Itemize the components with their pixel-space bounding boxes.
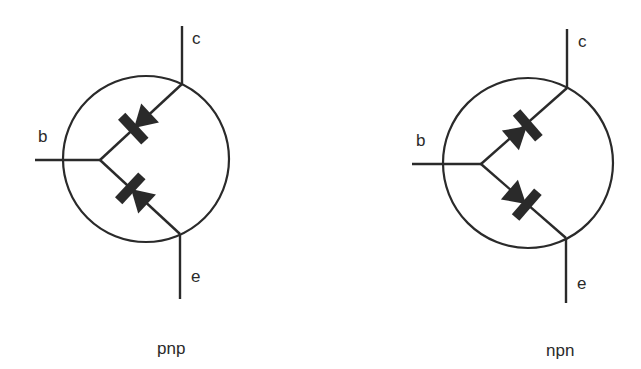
transistor-diagram: [0, 0, 641, 369]
pnp-emitter-label: e: [191, 268, 200, 285]
npn-base-label: b: [416, 132, 425, 149]
npn-collector-label: c: [578, 33, 587, 50]
pnp-symbol: [35, 26, 229, 299]
npn-caption: npn: [546, 342, 574, 359]
npn-symbol: [412, 29, 613, 303]
pnp-base-label: b: [38, 128, 47, 145]
pnp-collector-label: c: [192, 30, 201, 47]
npn-emitter-label: e: [577, 275, 586, 292]
pnp-caption: pnp: [157, 340, 185, 357]
